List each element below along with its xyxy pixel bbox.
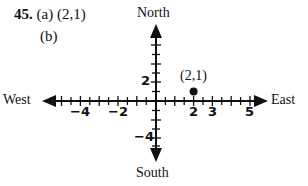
north-arrow-icon [150,24,162,38]
x-tick-label-3: 3 [208,104,217,119]
east-label: East [271,92,295,108]
west-label: West [3,92,31,108]
x-tick-label-5: 5 [245,104,254,119]
south-arrow-icon [150,148,162,162]
page: 45. (a) (2,1) (b) [0,0,308,186]
point-2-1 [190,88,198,96]
x-tick-label-neg4: −4 [70,104,90,119]
coordinate-plane [0,0,308,186]
east-arrow-icon [254,95,268,107]
x-tick-label-neg2: −2 [108,104,128,119]
west-arrow-icon [42,95,56,107]
x-tick-label-2: 2 [189,104,198,119]
point-label: (2,1) [180,68,207,84]
y-tick-label-2: 2 [141,73,150,88]
y-tick-label-neg4: −4 [134,129,154,144]
south-label: South [136,165,169,181]
north-label: North [137,5,170,21]
